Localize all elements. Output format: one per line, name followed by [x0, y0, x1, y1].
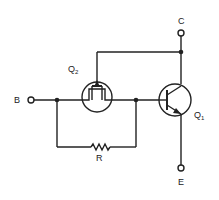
- base-terminal: [28, 97, 34, 103]
- q1-label: Q1: [194, 110, 205, 121]
- collector-label: C: [178, 16, 185, 26]
- q2-label: Q2: [68, 64, 79, 75]
- mosfet-gate: [86, 89, 108, 100]
- collector-terminal: [178, 30, 184, 36]
- q2-subscript: 2: [75, 69, 79, 75]
- q1-subscript: 1: [201, 115, 205, 121]
- emitter-label: E: [178, 177, 184, 187]
- resistor-zigzag: [91, 144, 110, 150]
- bjt-collector-lead: [167, 86, 181, 95]
- resistor-label: R: [96, 153, 103, 163]
- base-label: B: [14, 95, 20, 105]
- mosfet-arrow-icon: [95, 80, 100, 86]
- schematic-svg: B R Q2 C Q1 E: [0, 0, 219, 200]
- q2-letter: Q: [68, 64, 75, 74]
- emitter-terminal: [178, 165, 184, 171]
- q1-letter: Q: [194, 110, 201, 120]
- resistor-r: [57, 100, 136, 150]
- mosfet-q2: [82, 52, 112, 112]
- circuit-diagram: B R Q2 C Q1 E: [0, 0, 219, 200]
- bjt-q1: [159, 84, 191, 116]
